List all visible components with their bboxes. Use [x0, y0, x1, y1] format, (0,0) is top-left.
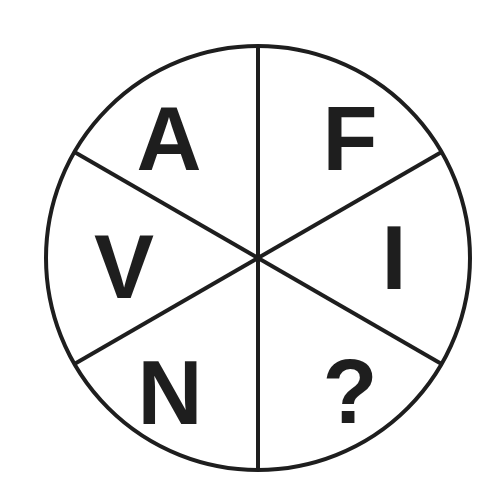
circle-diagram: A F I ? N V	[0, 0, 502, 502]
sector-letter-top-right: F	[323, 89, 378, 189]
sector-letter-left: V	[94, 217, 154, 317]
sector-letter-top-left: A	[137, 89, 202, 189]
sector-unknown-bottom-right: ?	[323, 342, 378, 442]
sector-letter-right: I	[381, 208, 406, 308]
sector-letter-bottom-left: N	[138, 343, 203, 443]
puzzle-diagram: A F I ? N V	[0, 0, 502, 502]
